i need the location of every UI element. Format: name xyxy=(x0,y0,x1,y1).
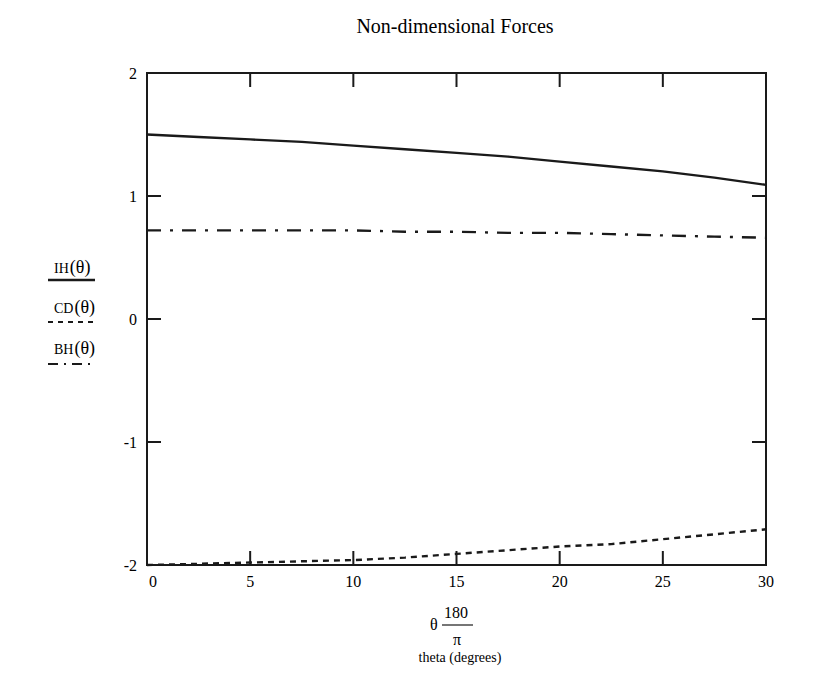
y-tick-label: 1 xyxy=(129,188,137,205)
data-series xyxy=(147,135,766,566)
x-tick-label: 25 xyxy=(655,573,671,590)
x-label-denominator: π xyxy=(453,631,461,648)
plot-frame xyxy=(147,73,766,565)
chart-title: Non-dimensional Forces xyxy=(356,15,553,37)
chart: Non-dimensional Forces -2-1012 051015202… xyxy=(0,0,817,697)
y-tick-labels: -2-1012 xyxy=(124,65,137,574)
legend: IH(θ) CD(θ) BH(θ) xyxy=(48,257,95,364)
x-axis-label: θ 180 π theta (degrees) xyxy=(419,604,502,666)
svg-text:BH(θ): BH(θ) xyxy=(54,338,95,359)
y-tick-label: -1 xyxy=(124,434,137,451)
legend-item-ih: IH(θ) xyxy=(48,257,95,280)
x-label-numerator: 180 xyxy=(444,604,468,621)
x-tick-labels: 051015202530 xyxy=(149,573,774,590)
legend-item-bh: BH(θ) xyxy=(48,338,95,364)
x-tick-label: 30 xyxy=(758,573,774,590)
legend-label-cd: CD xyxy=(54,301,73,316)
x-label-caption: theta (degrees) xyxy=(419,650,502,666)
series-bh xyxy=(147,230,766,237)
svg-text:CD(θ): CD(θ) xyxy=(54,297,95,318)
x-tick-label: 15 xyxy=(449,573,465,590)
legend-label-ih: IH xyxy=(54,261,69,276)
x-tick-label: 0 xyxy=(149,573,157,590)
svg-text:IH(θ): IH(θ) xyxy=(54,257,90,278)
y-tick-label: -2 xyxy=(124,557,137,574)
x-tick-label: 20 xyxy=(552,573,568,590)
legend-item-cd: CD(θ) xyxy=(48,297,95,322)
y-tick-label: 0 xyxy=(129,311,137,328)
y-tick-label: 2 xyxy=(129,65,137,82)
x-label-var: θ xyxy=(430,616,438,633)
x-tick-label: 10 xyxy=(345,573,361,590)
x-tick-label: 5 xyxy=(246,573,254,590)
axis-ticks xyxy=(147,73,766,565)
legend-label-bh: BH xyxy=(54,342,73,357)
series-ih xyxy=(147,135,766,185)
